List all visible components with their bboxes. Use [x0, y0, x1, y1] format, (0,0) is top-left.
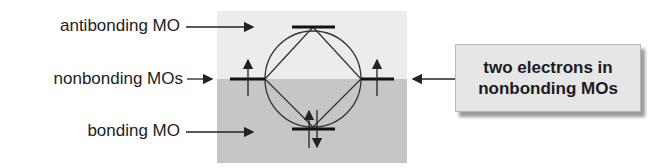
bonding-region: [217, 79, 407, 163]
antibonding-region: [217, 11, 407, 79]
callout-box: two electrons in nonbonding MOs: [455, 44, 641, 112]
antibonding-label: antibonding MO: [60, 16, 180, 36]
nonbonding-label: nonbonding MOs: [54, 69, 183, 89]
callout-line-2: nonbonding MOs: [478, 78, 618, 99]
callout-line-1: two electrons in: [483, 57, 612, 78]
bonding-label: bonding MO: [87, 121, 180, 141]
